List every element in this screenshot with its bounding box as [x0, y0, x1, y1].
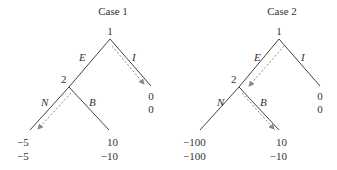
case2-root-label: 1: [276, 25, 282, 37]
case2-edge-E-label: E: [254, 51, 261, 63]
case1-payoff-B-p1: 10: [107, 136, 118, 148]
case1-edge-B-label: B: [89, 96, 96, 108]
case2-edge-N-label: N: [217, 96, 224, 108]
case1-node2-label: 2: [61, 73, 67, 85]
case1-payoff-N-p2: −5: [17, 150, 29, 162]
case2-payoff-I-p1: 0: [317, 90, 323, 102]
case2-payoff-N-p2: −100: [183, 150, 206, 162]
case1-payoff-I-p2: 0: [148, 103, 154, 115]
case1-root-label: 1: [107, 25, 113, 37]
case1-edge-N-label: N: [41, 96, 48, 108]
case2-payoff-B-p2: −10: [270, 150, 287, 162]
case2-edge-B-label: B: [260, 96, 267, 108]
case2-node2-label: 2: [231, 73, 237, 85]
case1-payoff-B-p2: −10: [101, 150, 118, 162]
case2-edge-I-label: I: [301, 51, 305, 63]
case2-edge-I: [279, 39, 320, 86]
case2-title: Case 2: [267, 5, 297, 17]
case1-edge-N: [30, 87, 69, 130]
case2-payoff-N-p1: −100: [183, 136, 206, 148]
case2-payoff-B-p1: 10: [276, 136, 287, 148]
case2-arrow-B: [242, 93, 274, 129]
case1-edge-B: [69, 87, 109, 130]
case2-edge-E: [239, 39, 279, 87]
case1-edge-E-label: E: [79, 51, 86, 63]
case1-payoff-N-p1: −5: [17, 136, 29, 148]
case2-edge-N: [200, 87, 239, 130]
case2-edge-B: [239, 87, 279, 130]
case1-edge-E: [69, 39, 110, 87]
case1-payoff-I-p1: 0: [148, 90, 154, 102]
case1-arrow-I: [112, 46, 144, 84]
case1-equilibrium-arrows: [38, 46, 144, 129]
case2-payoff-I-p2: 0: [317, 103, 323, 115]
case1-edge-I: [110, 39, 151, 86]
case1-edge-I-label: I: [132, 51, 136, 63]
case1-title: Case 1: [98, 5, 128, 17]
